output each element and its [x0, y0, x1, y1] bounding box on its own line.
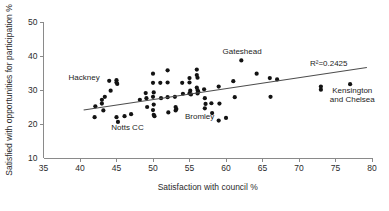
data-point	[203, 106, 207, 110]
annotation-bromley: Bromley	[185, 112, 214, 121]
y-axis-ticks: 1020304050	[28, 17, 43, 163]
annotation-notts-cc: Notts CC	[111, 123, 144, 132]
y-tick-label-40: 40	[28, 51, 38, 61]
annotation-gateshead: Gateshead	[222, 47, 261, 56]
data-point	[151, 81, 155, 85]
data-point	[93, 115, 97, 119]
data-point	[152, 114, 156, 118]
x-tick-label-50: 50	[148, 163, 158, 173]
data-point	[233, 95, 237, 99]
x-tick-label-75: 75	[331, 163, 341, 173]
data-point	[129, 112, 133, 116]
data-point	[122, 114, 126, 118]
data-point	[187, 80, 191, 84]
data-point	[101, 108, 105, 112]
data-point	[158, 81, 162, 85]
data-point	[103, 95, 107, 99]
data-point	[195, 76, 199, 80]
data-point	[239, 58, 243, 62]
data-point	[166, 80, 170, 84]
data-point	[217, 85, 221, 89]
data-point	[224, 116, 228, 120]
x-tick-label-35: 35	[39, 163, 49, 173]
data-point	[255, 72, 259, 76]
x-tick-label-45: 45	[112, 163, 122, 173]
data-point	[115, 82, 119, 86]
r-squared-label: R²=0.2425	[310, 59, 348, 68]
data-point	[107, 79, 111, 83]
data-point	[100, 102, 104, 106]
y-tick-label-50: 50	[28, 17, 38, 27]
data-point	[109, 89, 113, 93]
data-point	[152, 103, 156, 107]
y-axis-title: Satisfied with opportunities for partici…	[4, 4, 14, 176]
trend-line	[84, 68, 367, 111]
x-tick-label-80: 80	[367, 163, 377, 173]
data-point	[231, 79, 235, 83]
data-point	[174, 108, 178, 112]
data-point	[145, 105, 149, 109]
data-point	[268, 76, 272, 80]
data-point	[217, 102, 221, 106]
y-tick-label-10: 10	[28, 153, 38, 163]
x-tick-label-55: 55	[185, 163, 195, 173]
trend-line-group	[84, 68, 367, 111]
y-tick-label-20: 20	[28, 119, 38, 129]
data-point	[144, 91, 148, 95]
x-tick-label-65: 65	[258, 163, 268, 173]
data-point	[217, 119, 221, 123]
y-tick-label-30: 30	[28, 85, 38, 95]
data-point	[144, 96, 148, 100]
data-point	[195, 68, 199, 72]
annotation-kensington-and-chelsea: Kensingtonand Chelsea	[330, 86, 375, 105]
data-point	[166, 68, 170, 72]
data-point	[202, 87, 206, 91]
data-point	[187, 76, 191, 80]
data-point	[180, 81, 184, 85]
data-point	[151, 108, 155, 112]
data-point	[151, 95, 155, 99]
data-point	[319, 88, 323, 92]
data-point	[152, 90, 156, 94]
data-point	[166, 110, 170, 114]
x-tick-label-70: 70	[294, 163, 304, 173]
chart-canvas: 35404550556065707580 1020304050 HackneyN…	[0, 0, 389, 211]
data-points-group	[93, 58, 353, 124]
data-point	[100, 98, 104, 102]
data-point	[203, 102, 207, 106]
data-point	[114, 115, 118, 119]
x-tick-label-60: 60	[221, 163, 231, 173]
scatter-chart: 35404550556065707580 1020304050 HackneyN…	[0, 0, 389, 211]
data-point	[151, 72, 155, 76]
data-point	[203, 96, 207, 100]
x-axis-title: Satisfaction with council %	[158, 182, 259, 192]
x-axis-ticks: 35404550556065707580	[39, 158, 377, 173]
annotation-hackney: Hackney	[69, 73, 100, 82]
x-tick-label-40: 40	[75, 163, 85, 173]
data-point	[209, 101, 213, 105]
data-point	[268, 95, 272, 99]
